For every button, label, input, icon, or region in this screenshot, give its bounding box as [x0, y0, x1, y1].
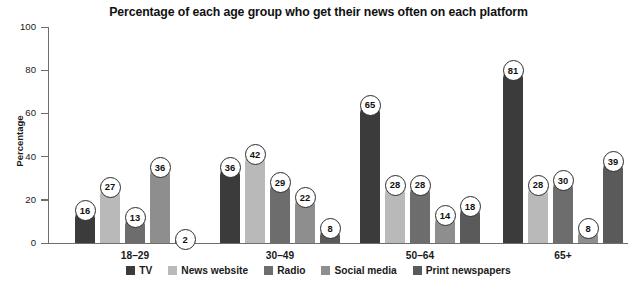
legend-item[interactable]: Social media: [321, 265, 396, 276]
x-axis-group-label: 65+: [503, 250, 623, 261]
legend-item[interactable]: News website: [168, 265, 248, 276]
y-tick-label: 80: [6, 64, 36, 75]
bar[interactable]: [360, 103, 380, 243]
bar-value-label: 22: [295, 187, 316, 208]
legend-item[interactable]: TV: [126, 265, 152, 276]
bar[interactable]: [503, 68, 523, 243]
bar-group: 6528281418: [360, 27, 480, 243]
bar-value-label: 36: [220, 157, 241, 178]
legend-label: Print newspapers: [426, 265, 511, 276]
legend-item[interactable]: Radio: [264, 265, 305, 276]
y-tick-label: 100: [6, 21, 36, 32]
chart-title: Percentage of each age group who get the…: [0, 5, 637, 19]
legend-swatch-icon: [264, 266, 273, 275]
bar-value-label: 14: [435, 205, 456, 226]
legend-swatch-icon: [321, 266, 330, 275]
bar-value-label: 2: [175, 229, 196, 250]
bar-value-label: 13: [125, 207, 146, 228]
bar-value-label: 65: [360, 95, 381, 116]
y-tick-label: 60: [6, 107, 36, 118]
bar-value-label: 27: [100, 177, 121, 198]
bar-value-label: 29: [270, 172, 291, 193]
legend-label: TV: [139, 265, 152, 276]
bar-value-label: 8: [320, 218, 341, 239]
legend-swatch-icon: [413, 266, 422, 275]
bar-value-label: 42: [245, 144, 266, 165]
bar[interactable]: [245, 152, 265, 243]
bar-value-label: 81: [503, 60, 524, 81]
bar-value-label: 28: [528, 175, 549, 196]
y-tick-label: 0: [6, 237, 36, 248]
bar-value-label: 30: [553, 170, 574, 191]
bar-group: 162713362: [75, 27, 195, 243]
x-axis-line: [48, 243, 628, 244]
bar-chart: Percentage of each age group who get the…: [0, 0, 637, 286]
chart-legend: TVNews websiteRadioSocial mediaPrint new…: [0, 265, 637, 276]
y-tick-label: 40: [6, 151, 36, 162]
bar-value-label: 8: [578, 218, 599, 239]
legend-label: Social media: [334, 265, 396, 276]
legend-item[interactable]: Print newspapers: [413, 265, 511, 276]
bar-value-label: 16: [75, 200, 96, 221]
legend-swatch-icon: [168, 266, 177, 275]
y-tick-label: 20: [6, 194, 36, 205]
bar-value-label: 28: [410, 175, 431, 196]
bar-value-label: 39: [603, 151, 624, 172]
bar-group: 812830839: [503, 27, 623, 243]
x-axis-group-label: 30–49: [220, 250, 340, 261]
bar-value-label: 28: [385, 175, 406, 196]
plot-area: 1627133623642292286528281418812830839: [48, 27, 628, 243]
legend-label: Radio: [277, 265, 305, 276]
bar-value-label: 36: [150, 157, 171, 178]
bar-value-label: 18: [460, 196, 481, 217]
x-axis-group-label: 50–64: [360, 250, 480, 261]
y-axis-label: Percentage: [2, 6, 13, 96]
x-axis-group-label: 18–29: [75, 250, 195, 261]
bar-group: 364229228: [220, 27, 340, 243]
legend-swatch-icon: [126, 266, 135, 275]
legend-label: News website: [181, 265, 248, 276]
